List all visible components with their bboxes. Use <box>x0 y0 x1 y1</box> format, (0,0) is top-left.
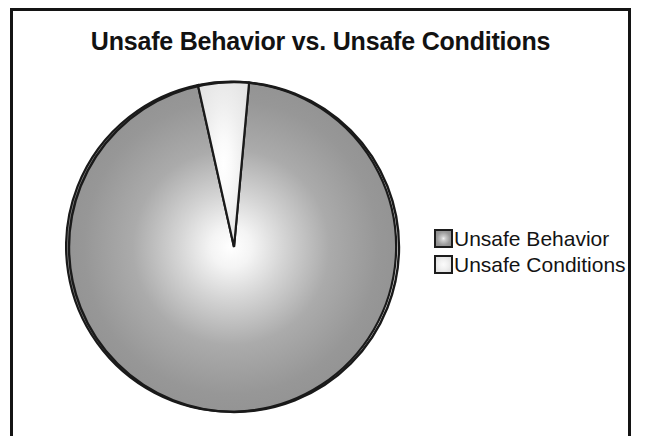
pie-chart <box>65 77 403 417</box>
legend-swatch-unsafe-behavior-icon <box>434 229 453 248</box>
chart-frame: Unsafe Behavior vs. Unsafe Conditions <box>10 8 631 436</box>
legend-item-unsafe-behavior[interactable]: Unsafe Behavior <box>434 226 634 251</box>
pie-svg <box>65 77 403 417</box>
legend-swatch-unsafe-conditions-icon <box>434 255 453 274</box>
legend-label-unsafe-conditions: Unsafe Conditions <box>454 254 626 276</box>
chart-title: Unsafe Behavior vs. Unsafe Conditions <box>13 27 628 56</box>
legend-item-unsafe-conditions[interactable]: Unsafe Conditions <box>434 252 634 277</box>
chart-legend: Unsafe Behavior Unsafe Conditions <box>434 226 634 278</box>
legend-label-unsafe-behavior: Unsafe Behavior <box>454 228 609 250</box>
